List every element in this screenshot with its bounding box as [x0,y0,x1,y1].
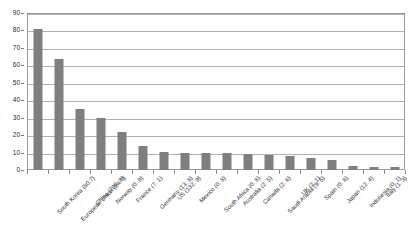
y-tick-label: 80 [13,27,20,34]
x-tick-mark [153,170,154,174]
x-tick-mark [69,170,70,174]
bar[interactable] [138,146,147,170]
y-tick-mark [21,83,24,84]
x-tick-label: Spain (0. 8) [323,175,349,201]
x-tick-mark [111,170,112,174]
bar-slot[interactable] [48,13,69,170]
bar[interactable] [222,153,231,170]
y-axis: 0102030405060708090 [0,13,24,170]
bar-slot[interactable] [153,13,174,170]
x-tick-label: Mexico (0. 8) [198,175,227,204]
bar-slot[interactable] [195,13,216,170]
x-tick-mark [363,170,364,174]
bar[interactable] [117,132,126,170]
x-tick-mark [342,170,343,174]
y-tick-label: 60 [13,62,20,69]
bar-slot[interactable] [363,13,384,170]
y-tick-label: 70 [13,45,20,52]
bar-slot[interactable] [216,13,237,170]
x-tick-mark [300,170,301,174]
bar[interactable] [285,156,294,170]
bar[interactable] [243,154,252,170]
y-tick-label: 50 [13,80,20,87]
bar[interactable] [201,153,210,170]
y-tick-label: 90 [13,10,20,17]
x-tick-mark [384,170,385,174]
x-tick-mark [237,170,238,174]
x-axis-labels: South Korea (80.7)European Union (24.7)C… [27,175,405,244]
x-tick-mark [174,170,175,174]
y-tick-mark [21,118,24,119]
x-tick-mark [195,170,196,174]
x-tick-mark [132,170,133,174]
bar[interactable] [33,29,42,170]
bar[interactable] [96,118,105,170]
bar-slot[interactable] [321,13,342,170]
bar[interactable] [159,152,168,170]
bar-slot[interactable] [384,13,405,170]
bars-layer [27,13,405,170]
bar[interactable] [327,160,336,170]
bar-slot[interactable] [90,13,111,170]
bar-slot[interactable] [69,13,90,170]
y-tick-mark [21,100,24,101]
x-tick-mark [90,170,91,174]
bar-slot[interactable] [27,13,48,170]
bar-slot[interactable] [111,13,132,170]
x-tick-mark [258,170,259,174]
bar[interactable] [306,158,315,170]
y-tick-label: 40 [13,97,20,104]
bar[interactable] [54,59,63,170]
bar[interactable] [180,153,189,170]
x-tick-mark [48,170,49,174]
x-tick-mark [279,170,280,174]
y-tick-label: 20 [13,132,20,139]
x-tick-label: Japan (12. 4) [345,175,374,204]
bar-slot[interactable] [132,13,153,170]
y-tick-mark [21,153,24,154]
x-tick-mark [321,170,322,174]
y-tick-mark [21,170,24,171]
bar-slot[interactable] [342,13,363,170]
x-tick-mark [216,170,217,174]
y-tick-mark [21,30,24,31]
bar-chart: 0102030405060708090 South Korea (80.7)Eu… [0,0,414,244]
bar-slot[interactable] [174,13,195,170]
bar-slot[interactable] [300,13,321,170]
bar[interactable] [75,109,84,170]
bar-slot[interactable] [258,13,279,170]
y-tick-mark [21,135,24,136]
bar-slot[interactable] [279,13,300,170]
y-tick-label: 10 [13,149,20,156]
x-tick-mark [27,170,28,174]
bar-slot[interactable] [237,13,258,170]
y-tick-label: 0 [16,167,20,174]
y-tick-mark [21,13,24,14]
x-tick-mark [405,170,406,174]
bar[interactable] [264,155,273,170]
y-tick-label: 30 [13,114,20,121]
y-tick-mark [21,65,24,66]
y-tick-mark [21,48,24,49]
